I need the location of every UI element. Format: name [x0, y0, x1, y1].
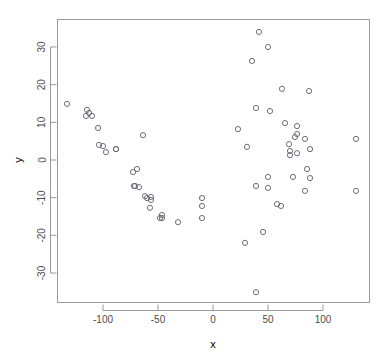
- data-point: [294, 123, 299, 128]
- data-point: [83, 113, 88, 118]
- data-point: [260, 229, 265, 234]
- data-point: [290, 174, 295, 179]
- data-point: [199, 195, 204, 200]
- y-tick-label: -20: [37, 228, 48, 243]
- data-point: [249, 58, 254, 63]
- data-point: [253, 183, 258, 188]
- y-tick-label: -10: [37, 190, 48, 205]
- data-point: [140, 133, 145, 138]
- data-point: [306, 88, 311, 93]
- data-point: [244, 144, 249, 149]
- y-axis: -30-20-100102030: [37, 41, 57, 280]
- x-tick-label: -100: [93, 314, 113, 325]
- x-axis-title: x: [210, 338, 216, 350]
- data-point: [265, 174, 270, 179]
- x-tick-label: 100: [315, 314, 332, 325]
- data-point: [267, 108, 272, 113]
- x-tick-label: 0: [210, 314, 216, 325]
- data-point: [147, 205, 152, 210]
- y-tick-label: 0: [37, 157, 48, 163]
- data-point: [302, 188, 307, 193]
- y-tick-label: 20: [37, 79, 48, 91]
- data-point: [253, 105, 258, 110]
- data-point: [235, 127, 240, 132]
- data-point: [286, 142, 291, 147]
- data-point: [253, 290, 258, 295]
- data-point: [175, 220, 180, 225]
- data-point: [279, 86, 284, 91]
- plot-canvas: -30-20-100102030 -100-50050100 x y: [0, 0, 390, 360]
- data-point: [302, 136, 307, 141]
- y-tick-label: 30: [37, 41, 48, 53]
- data-point: [256, 29, 261, 34]
- x-axis: -100-50050100: [93, 305, 332, 326]
- data-point: [353, 188, 358, 193]
- x-tick-label: -50: [151, 314, 166, 325]
- data-point: [199, 215, 204, 220]
- y-tick-label: -30: [37, 265, 48, 280]
- data-points: [64, 29, 358, 294]
- data-point: [103, 149, 108, 154]
- data-point: [265, 44, 270, 49]
- y-tick-label: 10: [37, 116, 48, 128]
- data-point: [64, 101, 69, 106]
- data-point: [95, 125, 100, 130]
- data-point: [353, 136, 358, 141]
- data-point: [134, 166, 139, 171]
- data-point: [89, 113, 94, 118]
- data-point: [199, 203, 204, 208]
- data-point: [265, 185, 270, 190]
- x-tick-label: 50: [262, 314, 274, 325]
- y-axis-title: y: [12, 157, 24, 163]
- scatter-plot-figure: -30-20-100102030 -100-50050100 x y: [0, 0, 390, 360]
- data-point: [242, 240, 247, 245]
- data-point: [113, 146, 118, 151]
- data-point: [307, 146, 312, 151]
- data-point: [282, 120, 287, 125]
- data-point: [294, 151, 299, 156]
- data-point: [304, 166, 309, 171]
- data-point: [307, 175, 312, 180]
- plot-frame: [58, 20, 370, 303]
